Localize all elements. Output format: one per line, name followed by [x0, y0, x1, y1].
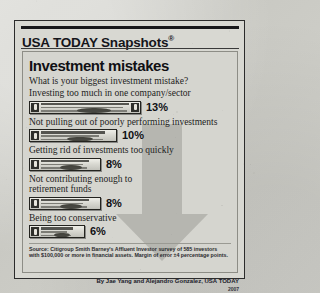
bill-bottom-lettering: [41, 110, 127, 112]
bar-row-label: Getting rid of investments too quickly: [29, 145, 231, 156]
bar-row: Not contributing enough toretirement fun…: [29, 174, 231, 211]
bill-top-lettering: [41, 131, 105, 134]
bar-rows: Investing too much in one company/sector…: [29, 88, 231, 239]
bar-row-label: Investing too much in one company/sector: [29, 88, 231, 99]
bill-bottom-lettering: [41, 139, 103, 141]
scan-speck: [6, 179, 7, 180]
scanned-page-background: USA TODAY Snapshots® Investment mistakes…: [0, 0, 259, 293]
bar-line: 13%: [29, 100, 231, 115]
masthead-rule-bottom: [21, 48, 239, 49]
copyright-year: 2007: [23, 286, 239, 292]
bar-row: Investing too much in one company/sector…: [29, 88, 231, 115]
bill-right-numeral: [130, 103, 139, 112]
bill-micro-lettering: [41, 135, 99, 137]
bar-value-label: 13%: [146, 101, 168, 114]
bar-row-label: Not contributing enough toretirement fun…: [29, 174, 231, 195]
bill-top-lettering: [41, 199, 89, 202]
bill-left-numeral: [31, 131, 40, 140]
bill-top-lettering: [41, 227, 73, 230]
bill-bottom-lettering: [41, 235, 71, 237]
scan-speck: [192, 43, 193, 44]
bar-row: Being too conservative6%: [29, 213, 231, 240]
registered-trademark-icon: ®: [168, 34, 174, 43]
bar-line: 6%: [29, 224, 231, 239]
chart-subtitle: What is your biggest investment mistake?: [29, 76, 231, 87]
page-title: Investment mistakes: [29, 57, 231, 75]
bill-left-numeral: [31, 160, 40, 169]
bar-line: 8%: [29, 157, 231, 172]
dollar-bill-bar: [29, 101, 141, 114]
bar-value-label: 6%: [90, 225, 106, 238]
byline: By Jae Yang and Alejandro Gonzalez, USA …: [23, 277, 239, 285]
dollar-bill-bar: [29, 197, 101, 210]
bar-value-label: 10%: [122, 129, 144, 142]
usa-today-snapshots-brand: USA TODAY Snapshots®: [22, 31, 238, 47]
bar-line: 10%: [29, 128, 231, 143]
scan-speck: [95, 39, 96, 40]
dollar-bill-bar: [29, 158, 101, 171]
source-note: Source: Citigroup Smith Barney's Affluen…: [29, 243, 231, 261]
bill-top-lettering: [41, 103, 129, 106]
bar-row: Getting rid of investments too quickly8%: [29, 145, 231, 172]
bar-value-label: 8%: [106, 197, 122, 210]
bar-line: 8%: [29, 196, 231, 211]
bill-left-numeral: [31, 199, 40, 208]
dollar-bill-bar: [29, 225, 85, 238]
masthead-rule-top: [21, 26, 239, 29]
bill-left-numeral: [31, 103, 40, 112]
snapshot-outer-frame: USA TODAY Snapshots® Investment mistakes…: [14, 20, 245, 279]
bill-left-numeral: [31, 227, 40, 236]
bill-top-lettering: [41, 160, 89, 163]
dollar-bill-bar: [29, 129, 117, 142]
scan-speck: [253, 172, 255, 174]
bill-bottom-lettering: [41, 167, 87, 169]
infographic-panel: Investment mistakes What is your biggest…: [22, 51, 238, 273]
scan-speck: [36, 0, 37, 1]
bar-row: Not pulling out of poorly performing inv…: [29, 117, 231, 144]
bar-value-label: 8%: [106, 158, 122, 171]
bar-row-label: Not pulling out of poorly performing inv…: [29, 117, 231, 128]
chart-content: Investment mistakes What is your biggest…: [23, 52, 237, 239]
scan-speck: [250, 164, 252, 166]
bar-row-label: Being too conservative: [29, 213, 231, 224]
bill-bottom-lettering: [41, 206, 87, 208]
